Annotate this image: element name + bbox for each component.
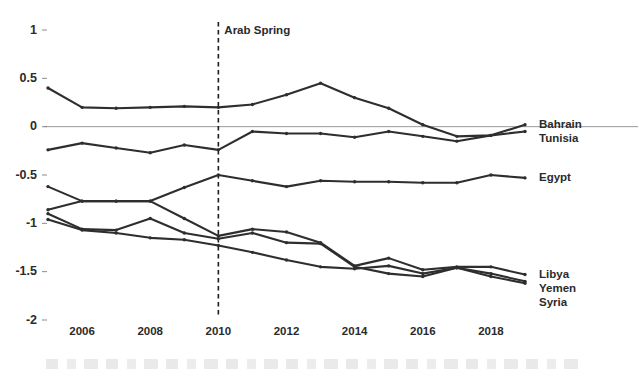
series-point-egypt — [319, 179, 322, 182]
series-point-bahrain — [251, 103, 254, 106]
series-point-bahrain — [319, 81, 322, 84]
y-axis-tick-label: 0 — [30, 119, 37, 133]
series-point-yemen — [46, 212, 49, 215]
series-point-syria — [489, 275, 492, 278]
x-axis-tick-label: 2010 — [206, 325, 232, 337]
series-point-bahrain — [114, 107, 117, 110]
series-point-syria — [114, 231, 117, 234]
series-point-syria — [149, 236, 152, 239]
series-point-libya — [149, 199, 152, 202]
series-point-bahrain — [217, 106, 220, 109]
series-point-syria — [217, 244, 220, 247]
series-point-libya — [523, 273, 526, 276]
series-point-bahrain — [285, 93, 288, 96]
series-point-yemen — [251, 231, 254, 234]
series-point-syria — [387, 264, 390, 267]
series-point-libya — [387, 256, 390, 259]
series-point-egypt — [387, 180, 390, 183]
y-axis-tick-label: 1 — [30, 23, 37, 37]
series-point-tunisia — [114, 146, 117, 149]
series-point-bahrain — [387, 107, 390, 110]
series-point-tunisia — [319, 132, 322, 135]
series-point-yemen — [217, 237, 220, 240]
chart-canvas: 10.50-0.5-1-1.5-220062008201020122014201… — [0, 0, 644, 373]
series-point-tunisia — [523, 130, 526, 133]
series-point-yemen — [387, 272, 390, 275]
series-point-egypt — [455, 181, 458, 184]
series-point-syria — [421, 272, 424, 275]
series-point-tunisia — [421, 135, 424, 138]
series-point-libya — [489, 265, 492, 268]
series-point-tunisia — [149, 151, 152, 154]
series-point-bahrain — [183, 105, 186, 108]
series-label-libya: Libya — [539, 268, 570, 280]
y-axis-tick-label: -1.5 — [15, 264, 37, 278]
series-point-syria — [183, 238, 186, 241]
series-point-tunisia — [80, 141, 83, 144]
series-point-bahrain — [46, 86, 49, 89]
series-label-egypt: Egypt — [539, 171, 571, 183]
y-axis-tick-label: -2 — [26, 313, 37, 327]
series-point-tunisia — [46, 148, 49, 151]
series-label-syria: Syria — [539, 296, 568, 308]
series-point-tunisia — [455, 139, 458, 142]
series-label-tunisia: Tunisia — [539, 132, 579, 144]
series-point-libya — [46, 208, 49, 211]
series-label-bahrain: Bahrain — [539, 118, 582, 130]
series-point-tunisia — [251, 130, 254, 133]
x-axis-tick-label: 2006 — [69, 325, 95, 337]
series-line-bahrain — [48, 83, 525, 136]
x-axis-tick-label: 2018 — [478, 325, 504, 337]
series-point-libya — [217, 234, 220, 237]
series-leader-yemen — [526, 281, 536, 288]
x-axis-tick-label: 2014 — [342, 325, 368, 337]
series-point-libya — [251, 227, 254, 230]
series-line-yemen — [48, 214, 525, 282]
series-point-egypt — [353, 180, 356, 183]
series-point-syria — [455, 266, 458, 269]
series-point-egypt — [285, 185, 288, 188]
annotation-label-arab-spring: Arab Spring — [224, 24, 290, 36]
series-point-syria — [523, 282, 526, 285]
series-point-libya — [114, 199, 117, 202]
y-axis-tick-label: 0.5 — [20, 71, 37, 85]
series-point-syria — [285, 258, 288, 261]
series-point-syria — [353, 267, 356, 270]
series-point-tunisia — [353, 136, 356, 139]
series-point-egypt — [183, 186, 186, 189]
series-point-yemen — [149, 217, 152, 220]
series-point-tunisia — [387, 130, 390, 133]
series-point-tunisia — [183, 143, 186, 146]
series-point-libya — [285, 230, 288, 233]
series-point-egypt — [523, 176, 526, 179]
series-point-yemen — [183, 231, 186, 234]
series-point-libya — [80, 199, 83, 202]
line-chart: 10.50-0.5-1-1.5-220062008201020122014201… — [0, 0, 644, 373]
series-point-bahrain — [149, 106, 152, 109]
series-point-tunisia — [489, 134, 492, 137]
series-point-yemen — [421, 275, 424, 278]
series-point-bahrain — [523, 123, 526, 126]
series-point-egypt — [217, 173, 220, 176]
series-point-yemen — [489, 272, 492, 275]
series-point-bahrain — [421, 123, 424, 126]
series-line-libya — [48, 201, 525, 274]
series-point-egypt — [251, 179, 254, 182]
series-point-tunisia — [217, 148, 220, 151]
series-leader-syria — [526, 283, 536, 302]
x-axis-tick-label: 2012 — [274, 325, 300, 337]
y-axis-tick-label: -0.5 — [15, 168, 37, 182]
x-axis-tick-label: 2008 — [137, 325, 163, 337]
series-point-yemen — [285, 241, 288, 244]
series-point-libya — [183, 217, 186, 220]
series-point-libya — [421, 268, 424, 271]
series-leader-tunisia — [526, 132, 536, 139]
series-point-syria — [319, 265, 322, 268]
series-point-egypt — [46, 185, 49, 188]
x-axis-tick-label: 2016 — [410, 325, 436, 337]
figure-caption-blurred — [46, 359, 586, 369]
series-point-bahrain — [455, 135, 458, 138]
series-point-egypt — [489, 173, 492, 176]
series-label-yemen: Yemen — [539, 282, 576, 294]
series-point-syria — [80, 228, 83, 231]
